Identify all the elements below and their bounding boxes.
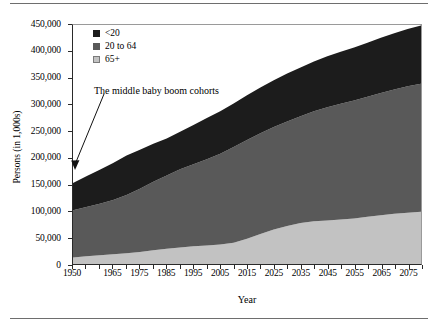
- y-tick-mark: [68, 185, 72, 186]
- x-tick-label: 1950: [63, 268, 81, 279]
- x-tick-label: 2065: [373, 268, 391, 279]
- x-tick-label: 1965: [103, 268, 121, 279]
- legend-swatch-icon: [93, 43, 100, 50]
- x-tick-label: 2015: [238, 268, 256, 279]
- legend-item[interactable]: <20: [93, 27, 183, 40]
- y-tick-label: 200,000: [31, 152, 61, 162]
- y-tick-mark: [68, 51, 72, 52]
- legend-label: 65+: [105, 54, 120, 65]
- x-tick-mark: [287, 265, 288, 269]
- x-tick-mark: [72, 265, 73, 269]
- x-tick-mark: [153, 265, 154, 269]
- legend: <2020 to 6465+: [93, 27, 183, 66]
- x-tick-mark: [422, 265, 423, 269]
- y-tick-label: 400,000: [31, 45, 61, 55]
- y-axis-title: Persons (in 1,000s): [12, 67, 22, 227]
- y-tick-mark: [68, 104, 72, 105]
- y-tick-mark: [68, 24, 72, 25]
- x-tick-label: 1995: [184, 268, 202, 279]
- x-tick-mark: [207, 265, 208, 269]
- legend-label: 20 to 64: [105, 41, 136, 52]
- legend-swatch-icon: [93, 56, 100, 63]
- y-tick-label: 450,000: [31, 19, 61, 29]
- bottom-divider-rule: [10, 318, 428, 319]
- x-tick-mark: [382, 265, 383, 269]
- x-axis: 1950196519751985199520052015202520352045…: [72, 268, 424, 286]
- y-tick-label: 0: [56, 260, 61, 270]
- x-tick-mark: [139, 265, 140, 269]
- x-tick-label: 2005: [211, 268, 229, 279]
- y-tick-label: 250,000: [31, 126, 61, 136]
- top-divider-rule: [10, 3, 428, 4]
- x-tick-mark: [260, 265, 261, 269]
- x-tick-label: 2075: [399, 268, 417, 279]
- y-tick-label: 350,000: [31, 72, 61, 82]
- y-tick-mark: [68, 238, 72, 239]
- legend-item[interactable]: 20 to 64: [93, 40, 183, 53]
- x-tick-mark: [166, 265, 167, 269]
- y-tick-label: 100,000: [31, 206, 61, 216]
- x-tick-mark: [314, 265, 315, 269]
- x-tick-mark: [409, 265, 410, 269]
- y-tick-mark: [68, 211, 72, 212]
- x-tick-mark: [234, 265, 235, 269]
- x-tick-mark: [193, 265, 194, 269]
- figure-container: 050,000100,000150,000200,000250,000300,0…: [0, 0, 438, 325]
- x-tick-mark: [247, 265, 248, 269]
- y-axis: 050,000100,000150,000200,000250,000300,0…: [0, 0, 68, 325]
- y-tick-label: 300,000: [31, 99, 61, 109]
- x-tick-mark: [99, 265, 100, 269]
- x-tick-mark: [341, 265, 342, 269]
- x-tick-mark: [368, 265, 369, 269]
- x-tick-label: 2025: [265, 268, 283, 279]
- x-tick-label: 1975: [130, 268, 148, 279]
- x-tick-mark: [112, 265, 113, 269]
- legend-label: <20: [105, 28, 120, 39]
- x-tick-label: 1985: [157, 268, 175, 279]
- x-tick-mark: [355, 265, 356, 269]
- x-tick-label: 2055: [346, 268, 364, 279]
- x-tick-mark: [301, 265, 302, 269]
- x-tick-label: 2045: [319, 268, 337, 279]
- y-tick-mark: [68, 158, 72, 159]
- x-tick-mark: [274, 265, 275, 269]
- y-tick-mark: [68, 78, 72, 79]
- legend-item[interactable]: 65+: [93, 53, 183, 66]
- x-axis-title: Year: [72, 294, 422, 305]
- x-tick-mark: [395, 265, 396, 269]
- annotation-arrow-icon: [68, 92, 108, 172]
- y-tick-mark: [68, 131, 72, 132]
- x-tick-mark: [328, 265, 329, 269]
- y-tick-label: 50,000: [35, 233, 61, 243]
- x-tick-mark: [220, 265, 221, 269]
- legend-swatch-icon: [93, 30, 100, 37]
- x-tick-mark: [85, 265, 86, 269]
- x-tick-label: 2035: [292, 268, 310, 279]
- x-tick-mark: [180, 265, 181, 269]
- x-tick-mark: [126, 265, 127, 269]
- annotation-label: The middle baby boom cohorts: [94, 85, 219, 96]
- y-tick-label: 150,000: [31, 179, 61, 189]
